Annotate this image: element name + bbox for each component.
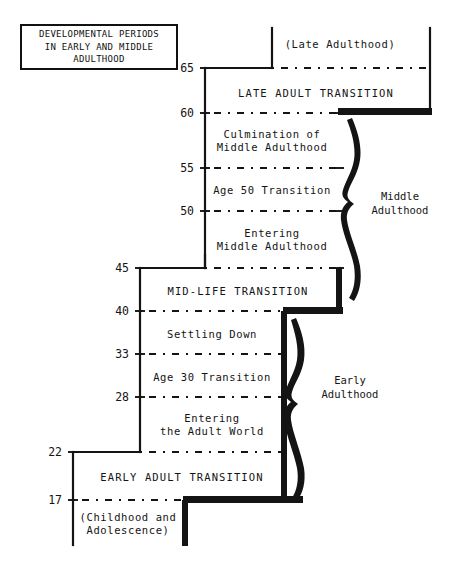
period-label-late-adult-transition: LATE ADULT TRANSITION (211, 87, 421, 100)
diagram-title-box: DEVELOPMENTAL PERIODS IN EARLY AND MIDDL… (20, 24, 178, 70)
period-label-early-adult-transition: EARLY ADULT TRANSITION (77, 471, 287, 484)
period-label-age-30-transition: Age 30 Transition (107, 371, 317, 384)
axis-tick-28: 28 (95, 391, 129, 403)
bar-age-60 (338, 108, 432, 115)
diagram-title-text: DEVELOPMENTAL PERIODS IN EARLY AND MIDDL… (39, 28, 159, 66)
period-label-childhood-and-adolescence: (Childhood and Adolescence) (23, 511, 233, 537)
era-label-middle-adulthood: Middle Adulthood (340, 189, 454, 217)
period-label-culmination-of-middle-adulthood: Culmination of Middle Adulthood (167, 128, 377, 154)
axis-tick-65: 65 (160, 62, 194, 74)
axis-tick-40: 40 (95, 305, 129, 317)
era-label-early-adulthood: Early Adulthood (290, 373, 410, 401)
axis-tick-33: 33 (95, 348, 129, 360)
period-label-mid-life-transition: MID-LIFE TRANSITION (133, 285, 343, 298)
axis-tick-22: 22 (28, 446, 62, 458)
period-label-settling-down: Settling Down (107, 328, 317, 341)
axis-tick-55: 55 (160, 162, 194, 174)
axis-tick-50: 50 (160, 205, 194, 217)
axis-tick-60: 60 (160, 107, 194, 119)
diagram-canvas: DEVELOPMENTAL PERIODS IN EARLY AND MIDDL… (0, 0, 454, 572)
period-label-entering-the-adult-world: Entering the Adult World (107, 412, 317, 438)
period-label-entering-middle-adulthood: Entering Middle Adulthood (167, 227, 377, 253)
period-label-late-adulthood: (Late Adulthood) (235, 38, 445, 51)
axis-tick-17: 17 (28, 494, 62, 506)
bar-age-40 (283, 307, 343, 314)
axis-tick-45: 45 (95, 262, 129, 274)
